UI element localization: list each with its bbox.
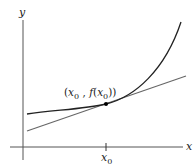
x0-sub: 0 bbox=[107, 157, 112, 166]
pl-close: )) bbox=[108, 86, 116, 98]
x-label-text: x bbox=[186, 140, 192, 153]
y-axis-label: y bbox=[19, 7, 25, 18]
y-label-text: y bbox=[19, 6, 25, 19]
tangent-point bbox=[104, 102, 108, 106]
pl-sep: , bbox=[79, 86, 89, 98]
diagram-canvas bbox=[0, 0, 196, 166]
x-axis-label: x bbox=[186, 141, 192, 152]
point-label: (x0 , f(x0)) bbox=[64, 87, 116, 101]
x0-tick-label: x0 bbox=[101, 152, 112, 166]
